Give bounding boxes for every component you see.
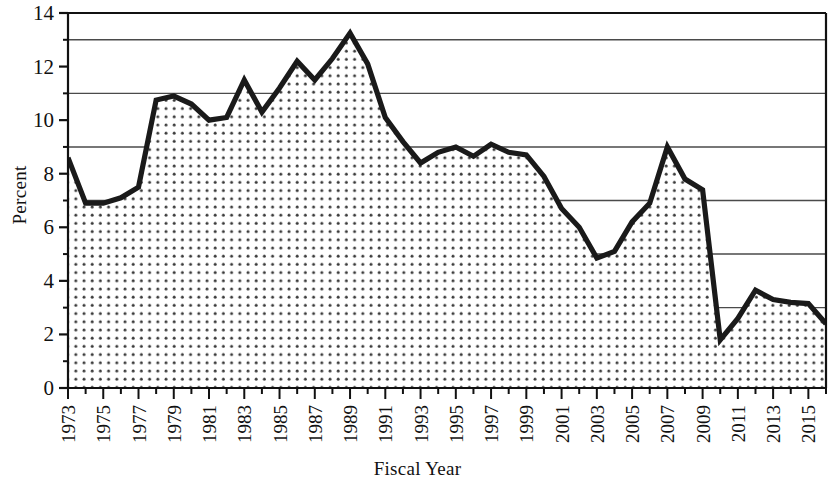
svg-text:8: 8 xyxy=(44,162,55,186)
svg-text:2001: 2001 xyxy=(552,405,573,443)
svg-text:2011: 2011 xyxy=(728,405,749,442)
svg-text:12: 12 xyxy=(33,55,54,79)
svg-text:2005: 2005 xyxy=(622,405,643,443)
svg-text:1979: 1979 xyxy=(164,405,185,443)
svg-text:1989: 1989 xyxy=(340,405,361,443)
svg-text:1983: 1983 xyxy=(234,405,255,443)
svg-text:1995: 1995 xyxy=(446,405,467,443)
svg-text:1987: 1987 xyxy=(305,405,326,443)
svg-text:2013: 2013 xyxy=(763,405,784,443)
svg-text:0: 0 xyxy=(44,376,55,400)
svg-text:1981: 1981 xyxy=(199,405,220,443)
svg-text:10: 10 xyxy=(33,108,54,132)
svg-text:2: 2 xyxy=(44,322,55,346)
y-axis-title: Percent xyxy=(9,151,31,239)
svg-text:2003: 2003 xyxy=(587,405,608,443)
svg-text:1993: 1993 xyxy=(411,405,432,443)
x-axis-title: Fiscal Year xyxy=(0,458,835,480)
svg-text:2015: 2015 xyxy=(798,405,819,443)
x-axis-ticks: 1973197519771979198119831985198719891991… xyxy=(58,388,826,443)
svg-text:2007: 2007 xyxy=(657,405,678,443)
svg-text:1997: 1997 xyxy=(481,405,502,443)
svg-text:1975: 1975 xyxy=(93,405,114,443)
svg-text:1991: 1991 xyxy=(375,405,396,443)
chart-container: 02468101214 1973197519771979198119831985… xyxy=(0,0,835,485)
svg-text:2009: 2009 xyxy=(693,405,714,443)
svg-text:1973: 1973 xyxy=(58,405,79,443)
y-axis-ticks: 02468101214 xyxy=(33,1,68,400)
area-chart-plot: 02468101214 1973197519771979198119831985… xyxy=(0,0,835,485)
svg-text:14: 14 xyxy=(33,1,55,25)
svg-text:1985: 1985 xyxy=(270,405,291,443)
svg-text:1977: 1977 xyxy=(129,405,150,443)
svg-text:6: 6 xyxy=(44,215,55,239)
svg-text:4: 4 xyxy=(44,269,55,293)
svg-text:1999: 1999 xyxy=(516,405,537,443)
